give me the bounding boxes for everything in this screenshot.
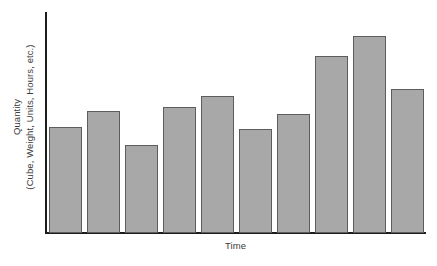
bar [277, 114, 310, 233]
bar [125, 145, 158, 233]
y-axis-label-text: Quantity (Cube, Weight, Units, Hours, et… [10, 44, 36, 189]
y-axis-label: Quantity (Cube, Weight, Units, Hours, et… [0, 0, 46, 233]
bar [87, 111, 120, 233]
bar [163, 107, 196, 233]
bar [391, 89, 424, 233]
bar [49, 127, 82, 233]
plot-area [47, 12, 426, 233]
y-axis-label-line-1: Quantity [10, 44, 23, 189]
y-axis-label-line-2: (Cube, Weight, Units, Hours, etc.) [23, 44, 36, 189]
bar [315, 56, 348, 233]
x-axis-label: Time [45, 240, 426, 251]
bar [353, 36, 386, 233]
bar-chart-figure: Quantity (Cube, Weight, Units, Hours, et… [0, 0, 437, 266]
bar [201, 96, 234, 233]
bar [239, 129, 272, 233]
